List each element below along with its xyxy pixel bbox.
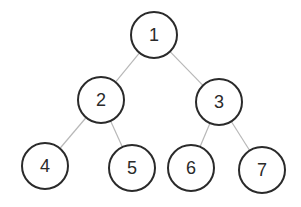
tree-node-4: 4 <box>22 143 68 189</box>
edge-3-6 <box>199 121 211 148</box>
node-label: 7 <box>257 160 267 180</box>
node-label: 4 <box>40 156 50 176</box>
node-label: 2 <box>96 90 106 110</box>
tree-node-1: 1 <box>131 12 177 58</box>
edge-3-7 <box>230 120 251 153</box>
tree-node-2: 2 <box>78 77 124 123</box>
node-label: 3 <box>214 92 224 112</box>
edge-2-5 <box>110 119 124 149</box>
tree-diagram: 1234567 <box>0 0 301 207</box>
node-label: 1 <box>149 25 159 45</box>
nodes-group: 1234567 <box>22 12 285 193</box>
edge-1-3 <box>169 50 205 87</box>
tree-node-6: 6 <box>168 145 214 191</box>
tree-node-3: 3 <box>196 79 242 125</box>
edge-2-4 <box>59 116 88 150</box>
tree-node-5: 5 <box>109 145 155 191</box>
node-label: 5 <box>127 158 137 178</box>
node-label: 6 <box>186 158 196 178</box>
edge-1-2 <box>114 51 140 83</box>
tree-node-7: 7 <box>239 147 285 193</box>
